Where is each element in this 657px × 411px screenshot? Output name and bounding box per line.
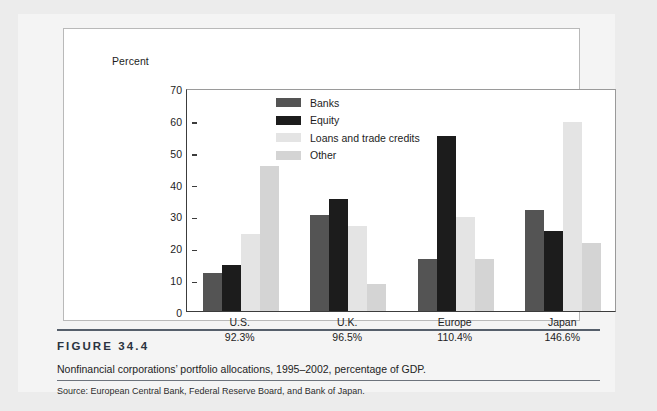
bar-group-europe <box>418 90 494 311</box>
source-rule <box>57 380 600 381</box>
y-axis-tick-label: 70 <box>170 84 182 96</box>
figure-top-rule <box>57 329 600 331</box>
y-axis-tick: 50 <box>170 148 187 160</box>
bar <box>348 226 367 311</box>
figure-card: Percent 010203040506070 BanksEquityLoans… <box>18 14 615 392</box>
bar <box>544 231 563 311</box>
x-axis-label-name: U.S. <box>190 315 290 330</box>
x-axis-label-name: Japan <box>512 315 612 330</box>
figure-caption-block: FIGURE 34.4 Nonfinancial corporations’ p… <box>57 329 600 396</box>
y-axis-tick: 40 <box>170 180 187 192</box>
figure-number: FIGURE 34.4 <box>57 340 600 352</box>
y-axis-tick: 20 <box>170 243 187 255</box>
bar-group-u-s- <box>203 90 279 311</box>
bar <box>203 273 222 311</box>
y-axis-tick: 70 <box>170 84 187 96</box>
y-axis-tick-label: 40 <box>170 180 182 192</box>
bar <box>582 243 601 311</box>
bar <box>241 234 260 311</box>
bar <box>525 210 544 311</box>
plot-area: 010203040506070 BanksEquityLoans and tra… <box>186 89 616 312</box>
bar <box>456 217 475 311</box>
y-axis-tick-label: 10 <box>170 275 182 287</box>
bar <box>563 122 582 311</box>
y-axis-tick: 60 <box>170 116 187 128</box>
y-axis-title: Percent <box>112 55 149 67</box>
bar-groups <box>187 90 615 311</box>
bar <box>475 259 494 311</box>
bar <box>222 265 241 311</box>
y-axis-tick-label: 30 <box>170 211 182 223</box>
bar <box>367 284 386 311</box>
bar <box>418 259 437 311</box>
figure-source: Source: European Central Bank, Federal R… <box>57 386 600 396</box>
x-axis-label-name: Europe <box>405 315 505 330</box>
bar-group-u-k- <box>310 90 386 311</box>
chart-container: Percent 010203040506070 BanksEquityLoans… <box>63 28 580 321</box>
bar-group-japan <box>525 90 601 311</box>
bar <box>310 215 329 311</box>
bar <box>260 166 279 311</box>
y-axis-tick-label: 0 <box>176 307 182 319</box>
bar <box>437 136 456 311</box>
y-axis-tick: 30 <box>170 211 187 223</box>
figure-description: Nonfinancial corporations’ portfolio all… <box>57 363 600 380</box>
x-axis-label-name: U.K. <box>297 315 397 330</box>
y-axis-tick: 10 <box>170 275 187 287</box>
y-axis-tick-label: 60 <box>170 116 182 128</box>
page-background: Percent 010203040506070 BanksEquityLoans… <box>0 0 657 411</box>
y-axis-tick-label: 20 <box>170 243 182 255</box>
y-axis-tick-label: 50 <box>170 148 182 160</box>
bar <box>329 199 348 311</box>
